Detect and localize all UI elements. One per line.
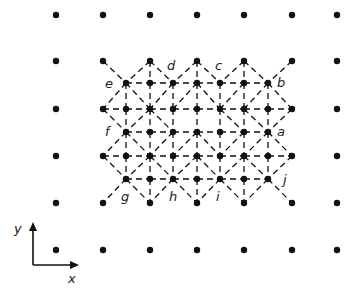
- lattice-point: [100, 200, 106, 206]
- inner-lattice-point: [265, 176, 271, 182]
- inner-lattice-point: [241, 80, 247, 86]
- bond-line: [244, 156, 268, 179]
- lattice-point: [289, 153, 295, 159]
- site-label-e: e: [105, 76, 113, 91]
- bond-line: [268, 179, 292, 203]
- inner-lattice-point: [147, 129, 153, 135]
- bond-line: [220, 61, 244, 83]
- lattice-point: [147, 247, 153, 253]
- bond-line: [126, 109, 150, 132]
- lattice-point: [53, 106, 59, 112]
- lattice-point: [334, 200, 340, 206]
- lattice-point: [100, 106, 106, 112]
- inner-lattice-point: [170, 153, 176, 159]
- inner-lattice-point: [217, 80, 223, 86]
- lattice-point: [194, 200, 200, 206]
- bond-line: [268, 156, 292, 179]
- bond-line: [197, 156, 220, 179]
- lattice-point: [194, 58, 200, 64]
- lattice-point: [334, 106, 340, 112]
- site-label-i: i: [216, 189, 220, 204]
- lattice-point: [289, 12, 295, 18]
- lattice-point: [289, 247, 295, 253]
- y-axis-label: y: [13, 221, 22, 236]
- inner-lattice-point: [147, 176, 153, 182]
- lattice-point: [334, 12, 340, 18]
- lattice-point: [334, 153, 340, 159]
- lattice-point: [194, 12, 200, 18]
- bond-line: [220, 156, 244, 179]
- site-label-d: d: [167, 58, 176, 73]
- inner-lattice-point: [123, 80, 129, 86]
- bond-line: [220, 132, 244, 156]
- bond-line: [197, 132, 220, 156]
- bond-line: [126, 132, 150, 156]
- inner-lattice-point: [147, 153, 153, 159]
- bond-line: [244, 132, 268, 156]
- site-label-h: h: [169, 189, 177, 204]
- lattice-point: [147, 58, 153, 64]
- lattice-point: [53, 153, 59, 159]
- x-axis-label: x: [67, 271, 76, 286]
- lattice-point: [241, 247, 247, 253]
- inner-lattice-point: [241, 176, 247, 182]
- coordinate-axes: x y: [13, 221, 79, 286]
- inner-lattice-point: [123, 106, 129, 112]
- inner-lattice-point: [170, 129, 176, 135]
- bond-line: [244, 109, 268, 132]
- bond-line: [173, 156, 197, 179]
- bond-line: [244, 83, 268, 109]
- inner-lattice-point: [241, 106, 247, 112]
- bond-line: [103, 156, 126, 179]
- inner-lattice-point: [217, 106, 223, 112]
- inner-lattice-point: [217, 176, 223, 182]
- x-axis-arrow-icon: [70, 261, 79, 269]
- inner-lattice-point: [265, 153, 271, 159]
- bond-line: [220, 179, 244, 203]
- lattice-point: [289, 58, 295, 64]
- lattice-point: [147, 200, 153, 206]
- lattice-point: [100, 153, 106, 159]
- inner-lattice-point: [123, 129, 129, 135]
- bond-line: [173, 132, 197, 156]
- bond-line: [150, 132, 173, 156]
- inner-lattice-point: [194, 153, 200, 159]
- site-label-b: b: [277, 75, 285, 90]
- inner-lattice-point: [147, 80, 153, 86]
- site-label-g: g: [121, 189, 129, 204]
- lattice-point: [289, 200, 295, 206]
- y-axis-arrow-icon: [29, 222, 37, 231]
- inner-lattice-point: [170, 80, 176, 86]
- lattice-point: [241, 12, 247, 18]
- inner-lattice-point: [241, 153, 247, 159]
- inner-lattice-point: [217, 129, 223, 135]
- lattice-point: [53, 58, 59, 64]
- bond-line: [126, 156, 150, 179]
- lattice-point: [53, 200, 59, 206]
- inner-lattice-point: [170, 106, 176, 112]
- lattice-diagram: abcdefghij x y: [0, 0, 353, 292]
- lattice-point: [289, 106, 295, 112]
- inner-lattice-point: [194, 106, 200, 112]
- lattice-point: [100, 247, 106, 253]
- inner-lattice-point: [194, 129, 200, 135]
- inner-lattice-point: [265, 106, 271, 112]
- bond-line: [150, 83, 173, 109]
- inner-lattice-point: [123, 153, 129, 159]
- bond-line: [244, 179, 268, 203]
- lattice-point: [334, 58, 340, 64]
- site-label-c: c: [215, 58, 222, 73]
- inner-lattice-point: [147, 106, 153, 112]
- bond-line: [126, 61, 150, 83]
- site-label-j: j: [281, 172, 287, 187]
- lattice-point: [147, 12, 153, 18]
- bond-line: [197, 83, 220, 109]
- bond-line: [126, 179, 150, 203]
- bond-line: [244, 61, 268, 83]
- lattice-point: [53, 12, 59, 18]
- lattice-point: [241, 200, 247, 206]
- site-label-a: a: [277, 124, 285, 139]
- bond-line: [173, 83, 197, 109]
- bond-line: [126, 83, 150, 109]
- lattice-point: [334, 247, 340, 253]
